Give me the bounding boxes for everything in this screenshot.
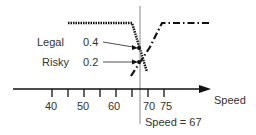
- tick-label-70: 70: [143, 101, 155, 112]
- legal-arrow: [103, 42, 133, 47]
- tick-label-75: 75: [160, 101, 172, 112]
- risky-membership-curve: [131, 23, 210, 76]
- legal-label: Legal: [37, 37, 64, 48]
- tick-label-50: 50: [77, 101, 89, 112]
- axis-arrowhead-icon: [199, 85, 211, 93]
- risky-value: 0.2: [83, 57, 98, 68]
- axis-label: Speed: [214, 95, 246, 106]
- tick-label-40: 40: [45, 101, 57, 112]
- legal-value: 0.4: [83, 37, 98, 48]
- axis-ticks: [52, 89, 164, 97]
- legal-intersection-point: [137, 46, 141, 50]
- diagram-canvas: [0, 0, 256, 135]
- speed-marker-label: Speed = 67: [145, 117, 202, 128]
- risky-label: Risky: [42, 57, 69, 68]
- risky-intersection-point: [137, 60, 141, 64]
- tick-label-60: 60: [108, 101, 120, 112]
